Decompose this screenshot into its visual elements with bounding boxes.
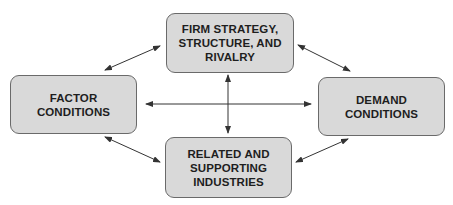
- node-related-supporting-label: RELATED AND SUPPORTING INDUSTRIES: [187, 147, 269, 189]
- node-firm-strategy-label: FIRM STRATEGY, STRUCTURE, AND RIVALRY: [178, 22, 281, 64]
- node-factor-conditions: FACTOR CONDITIONS: [10, 75, 137, 134]
- node-firm-strategy: FIRM STRATEGY, STRUCTURE, AND RIVALRY: [166, 13, 294, 73]
- arrow-factor-to-firm: [105, 46, 160, 70]
- node-related-supporting: RELATED AND SUPPORTING INDUSTRIES: [165, 137, 292, 198]
- node-demand-conditions: DEMAND CONDITIONS: [318, 77, 445, 136]
- arrow-related-to-demand: [296, 139, 348, 162]
- arrow-factor-to-related: [105, 137, 160, 162]
- node-factor-conditions-label: FACTOR CONDITIONS: [37, 91, 110, 119]
- arrow-firm-to-demand: [298, 45, 350, 71]
- node-demand-conditions-label: DEMAND CONDITIONS: [345, 93, 418, 121]
- porter-diamond-diagram: FIRM STRATEGY, STRUCTURE, AND RIVALRY FA…: [0, 0, 453, 205]
